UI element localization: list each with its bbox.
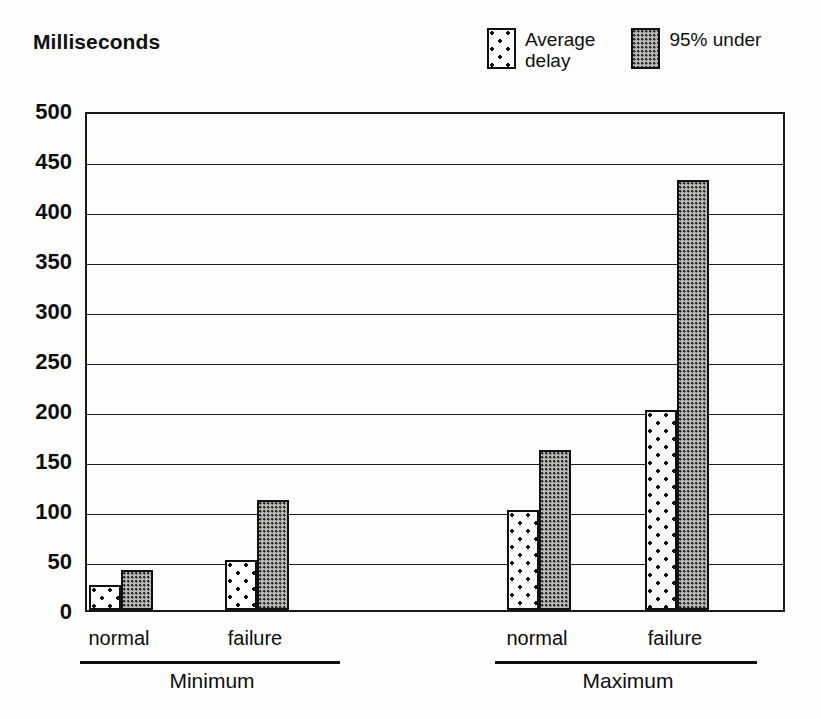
bar xyxy=(257,500,289,610)
y-axis-tick-label: 450 xyxy=(14,149,72,175)
legend-item: 95% under xyxy=(631,28,761,69)
plot-area xyxy=(87,114,783,610)
x-axis-group-label: Maximum xyxy=(582,669,673,693)
y-axis-tick-label: 50 xyxy=(14,549,72,575)
x-axis-tick-label: failure xyxy=(648,627,702,650)
group-underline xyxy=(80,661,340,664)
y-axis-tick-label: 500 xyxy=(14,99,72,125)
x-axis-tick-label: normal xyxy=(88,627,149,650)
bar xyxy=(507,510,539,610)
legend-item-label: Average delay xyxy=(525,28,595,71)
sparse-dot-swatch-icon xyxy=(487,28,516,69)
bar xyxy=(121,570,153,610)
group-underline xyxy=(495,661,757,664)
y-axis-tick-label: 400 xyxy=(14,199,72,225)
legend-item-label: 95% under xyxy=(669,28,761,50)
x-axis-group-label: Minimum xyxy=(169,669,254,693)
bar xyxy=(677,180,709,610)
x-axis-tick-label: normal xyxy=(506,627,567,650)
y-axis-tick-label: 150 xyxy=(14,449,72,475)
y-axis-tick-label: 200 xyxy=(14,399,72,425)
legend-item: Average delay xyxy=(487,28,595,71)
y-axis-tick-label: 0 xyxy=(14,599,72,625)
bar xyxy=(539,450,571,610)
plot-frame xyxy=(85,112,785,612)
gridline xyxy=(87,164,783,165)
x-axis-tick-label: failure xyxy=(228,627,282,650)
y-axis-tick-labels: 050100150200250300350400450500 xyxy=(10,112,72,612)
y-axis-tick-label: 250 xyxy=(14,349,72,375)
bar xyxy=(89,585,121,610)
bar xyxy=(645,410,677,610)
dense-dot-swatch-icon xyxy=(631,28,660,69)
y-axis-tick-label: 100 xyxy=(14,499,72,525)
page-title: Milliseconds xyxy=(33,30,160,54)
bar xyxy=(225,560,257,610)
chart-legend: Average delay95% under xyxy=(487,28,761,71)
y-axis-tick-label: 350 xyxy=(14,249,72,275)
y-axis-tick-label: 300 xyxy=(14,299,72,325)
chart-page: Milliseconds Average delay95% under 0501… xyxy=(0,0,821,719)
